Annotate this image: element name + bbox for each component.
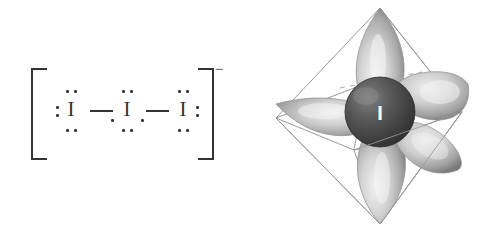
electron-dot — [186, 90, 189, 93]
atom-symbol: I — [110, 98, 144, 120]
atom-symbol: I — [166, 98, 200, 120]
electron-dot — [66, 129, 69, 132]
central-atom-label: I — [377, 102, 383, 124]
bracket-right — [198, 68, 214, 160]
atom-iodine-right: I — [166, 86, 200, 138]
electron-dot — [74, 90, 77, 93]
electron-dot — [178, 129, 181, 132]
electron-dot — [74, 129, 77, 132]
bracket-left — [31, 68, 47, 160]
charge-label: − — [215, 62, 223, 77]
electron-dot — [130, 90, 133, 93]
electron-dot — [186, 129, 189, 132]
orbital-model-panel: I — [262, 0, 486, 234]
central-atom-sphere: I — [345, 77, 415, 147]
electron-dot — [122, 129, 125, 132]
lewis-structure-panel: − I I I — [0, 0, 250, 234]
atom-symbol: I — [54, 98, 88, 120]
electron-dot — [122, 90, 125, 93]
atom-iodine-left: I — [54, 86, 88, 138]
electron-dot — [66, 90, 69, 93]
electron-dot — [178, 90, 181, 93]
orbital-model-svg: I — [262, 0, 486, 234]
electron-dot — [130, 129, 133, 132]
atom-iodine-center: I — [110, 86, 144, 138]
